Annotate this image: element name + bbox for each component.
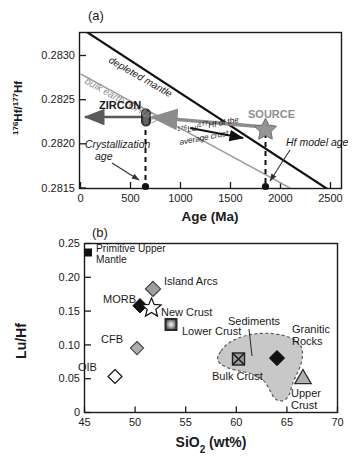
panel-b-xtick-2: 55	[180, 416, 192, 428]
panel-a-xtick-0: 0	[77, 192, 83, 204]
panel-b-ytick-4: 0.20	[59, 271, 80, 283]
panel-b-y-ticks: 0 0.05 0.10 0.15 0.20 0.25	[59, 237, 91, 418]
label-upper-crust-l1: Upper	[291, 387, 321, 399]
svg-text:176Hf/177Hf: 176Hf/177Hf	[11, 81, 25, 135]
crystallization-age-label-line1: Crystallization	[85, 138, 151, 150]
point-oib	[108, 370, 122, 384]
panel-a-xtick-4: 2000	[268, 192, 292, 204]
panel-a-xtick-5: 2500	[318, 192, 342, 204]
panel-a-label: (a)	[88, 8, 104, 23]
panel-a-xtick-3: 1500	[218, 192, 242, 204]
label-bulk-crust: Bulk Crust	[212, 370, 263, 382]
panel-a-x-ticks: 0 500 1000 1500 2000 2500	[77, 182, 342, 204]
point-primitive-upper-mantle	[84, 249, 92, 257]
label-lower-crust: Lower Crust	[182, 325, 241, 337]
panel-a-xtick-1: 500	[121, 192, 139, 204]
panel-b-xtick-4: 65	[281, 416, 293, 428]
label-new-crust: New Crust	[161, 306, 212, 318]
label-morb: MORB	[103, 293, 136, 305]
hf-model-age-label: Hf model age	[286, 136, 349, 148]
figure-container: (a) 176Hf/177Hf 0.2815 0.2820 0.2825 0.2…	[0, 0, 358, 459]
panel-a-ytick-1: 0.2820	[41, 137, 75, 149]
panel-a-ytick-0: 0.2815	[41, 182, 75, 194]
panel-b-ytick-1: 0.05	[59, 372, 80, 384]
point-island-arcs	[145, 281, 160, 296]
panel-a-hf-evolution: (a) 176Hf/177Hf 0.2815 0.2820 0.2825 0.2…	[0, 0, 358, 230]
label-cfb: CFB	[101, 333, 123, 345]
point-lower-crust	[165, 318, 178, 331]
crystallization-age-leader	[112, 163, 139, 180]
label-primitive-upper-mantle-l1: Primitive Upper	[96, 243, 166, 254]
zircon-label: ZIRCON	[99, 99, 141, 111]
label-island-arcs: Island Arcs	[164, 275, 218, 287]
panel-b-xtick-1: 50	[129, 416, 141, 428]
point-new-crust	[142, 298, 161, 316]
label-oib: OIB	[78, 361, 97, 373]
source-star-marker	[255, 118, 277, 139]
hf-model-age-point	[262, 183, 269, 190]
point-bulk-crust	[233, 353, 245, 365]
label-upper-crust-l2: Crust	[291, 399, 317, 411]
source-label: SOURCE	[248, 108, 295, 120]
panel-a-ytick-3: 0.2830	[41, 49, 75, 61]
panel-b-label: (b)	[92, 225, 108, 240]
point-cfb	[130, 342, 143, 355]
panel-b-ytick-5: 0.25	[59, 237, 80, 249]
panel-b-ytick-3: 0.15	[59, 305, 80, 317]
panel-a-ytick-2: 0.2825	[41, 93, 75, 105]
sediments-field	[218, 333, 303, 401]
panel-b-xtick-5: 70	[331, 416, 343, 428]
panel-b-ytick-2: 0.10	[59, 339, 80, 351]
panel-b-x-axis-title: SiO2 (wt%)	[176, 434, 247, 455]
panel-b-y-axis-title: Lu/Hf	[13, 323, 29, 359]
label-granitic-rocks-l1: Granitic	[292, 323, 330, 335]
panel-b-xtick-3: 60	[230, 416, 242, 428]
panel-a-xtick-2: 1000	[168, 192, 192, 204]
panel-b-xtick-0: 45	[78, 416, 90, 428]
label-primitive-upper-mantle-l2: Mantle	[96, 254, 127, 265]
panel-a-y-axis-title: 176Hf/177Hf	[11, 81, 25, 135]
label-granitic-rocks-l2: Rocks	[292, 335, 323, 347]
crystallization-age-point	[142, 183, 149, 190]
crystallization-age-label-line2: age	[95, 150, 113, 162]
panel-b-luhf-vs-sio2: (b) Lu/Hf 0 0.05 0.10 0.15 0.20 0.25	[0, 219, 358, 459]
